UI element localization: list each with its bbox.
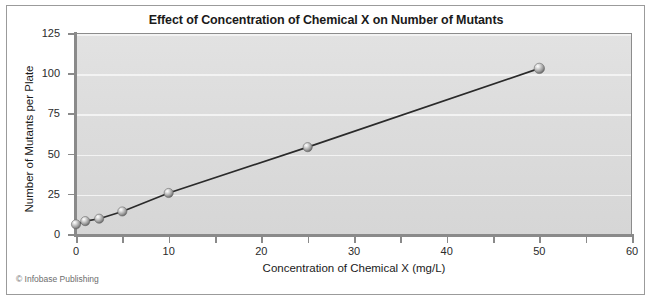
x-axis-tick [400, 237, 402, 243]
x-axis-tick [632, 237, 634, 243]
y-axis-line [74, 32, 77, 235]
x-axis-tick [586, 237, 588, 243]
chart-title: Effect of Concentration of Chemical X on… [0, 13, 652, 27]
plot-area [76, 33, 632, 234]
x-axis-tick-label: 40 [427, 245, 467, 257]
y-axis-title: Number of Mutants per Plate [23, 34, 35, 244]
gridline [76, 74, 631, 76]
x-axis-tick [308, 237, 310, 243]
gridline [76, 34, 631, 36]
y-axis-tick [68, 73, 74, 75]
y-axis-tick [68, 113, 74, 115]
x-axis-tick [76, 237, 78, 243]
y-axis-tick-label: 0 [14, 228, 60, 240]
x-axis-tick [354, 237, 356, 243]
y-axis-tick [68, 154, 74, 156]
y-axis-tick-label: 25 [14, 188, 60, 200]
gridline [76, 195, 631, 197]
x-axis-tick-label: 60 [612, 245, 652, 257]
y-axis-tick-label: 50 [14, 148, 60, 160]
y-axis-tick [68, 33, 74, 35]
x-axis-tick [122, 237, 124, 243]
y-axis-tick [68, 234, 74, 236]
x-axis-tick [215, 237, 217, 243]
x-axis-tick-label: 50 [519, 245, 559, 257]
y-axis-tick-label: 75 [14, 107, 60, 119]
chart-figure: Effect of Concentration of Chemical X on… [0, 0, 652, 303]
y-axis-tick-label: 100 [14, 67, 60, 79]
x-axis-tick [539, 237, 541, 243]
y-axis-tick-label: 125 [14, 27, 60, 39]
gridline [76, 114, 631, 116]
x-axis-tick-label: 0 [56, 245, 96, 257]
x-axis-tick-label: 30 [334, 245, 374, 257]
copyright-credit: © Infobase Publishing [16, 274, 99, 284]
x-axis-title: Concentration of Chemical X (mg/L) [76, 262, 632, 274]
x-axis-tick [447, 237, 449, 243]
gridline [76, 155, 631, 157]
x-axis-tick-label: 20 [241, 245, 281, 257]
x-axis-tick [261, 237, 263, 243]
y-axis-tick [68, 194, 74, 196]
x-axis-tick [169, 237, 171, 243]
x-axis-tick [493, 237, 495, 243]
x-axis-tick-label: 10 [149, 245, 189, 257]
